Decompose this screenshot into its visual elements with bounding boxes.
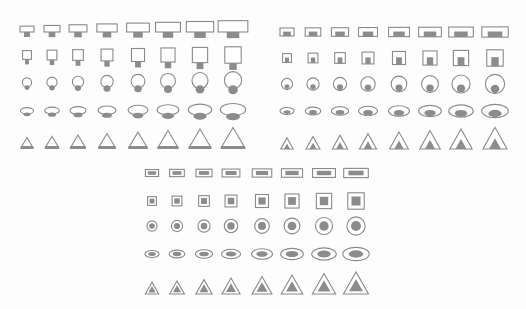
triangle-icon <box>45 136 59 149</box>
triangle-icon <box>98 133 115 149</box>
triangle-icon <box>281 275 303 294</box>
wide-rectangle-icon <box>280 28 294 36</box>
square-icon <box>148 197 157 206</box>
circle-icon <box>22 78 31 90</box>
circle-icon <box>281 78 292 89</box>
panel-a-attached <box>20 21 248 149</box>
wide-rectangle-icon <box>196 169 212 177</box>
circle-icon <box>333 77 346 90</box>
triangle-icon <box>390 132 409 149</box>
panel-b-bottom-aligned-row-circle <box>281 74 504 93</box>
ellipse-icon <box>358 106 377 116</box>
wide-rectangle-icon <box>281 169 302 178</box>
triangle-icon <box>70 135 85 149</box>
ellipse-icon <box>195 250 212 259</box>
panel-b-bottom-aligned-row-triangle <box>281 127 507 149</box>
circle-icon <box>307 78 319 90</box>
ellipse-icon <box>305 107 321 115</box>
triangle-icon <box>343 272 368 294</box>
wide-rectangle-icon <box>186 21 213 37</box>
panel-c-centered-row-triangle <box>145 272 368 294</box>
wide-rectangle-icon <box>97 24 117 38</box>
ellipse-icon <box>220 103 245 120</box>
wide-rectangle-icon <box>389 27 410 36</box>
triangle-icon <box>312 274 335 294</box>
panel-c-centered-row-square <box>148 193 365 209</box>
wide-rectangle-icon <box>156 22 181 37</box>
wide-rectangle-icon <box>145 170 158 177</box>
panel-c-centered-row-circle <box>147 217 365 235</box>
square-icon <box>225 195 237 207</box>
panel-a-attached-row-wide-rectangle <box>20 21 248 38</box>
ellipse-icon <box>331 107 348 116</box>
square-icon <box>255 194 268 207</box>
wide-rectangle-icon <box>127 23 150 38</box>
ellipse-icon <box>449 105 474 117</box>
circle-icon <box>147 221 157 231</box>
circle-icon <box>391 76 407 92</box>
triangle-icon <box>483 127 507 149</box>
ellipse-icon <box>169 250 185 258</box>
ellipse-icon <box>312 248 337 260</box>
circle-icon <box>347 217 365 235</box>
wide-rectangle-icon <box>20 26 34 37</box>
wide-rectangle-icon <box>222 169 240 177</box>
ellipse-icon <box>343 247 369 260</box>
square-icon <box>487 50 503 66</box>
triangle-icon <box>196 280 212 294</box>
triangle-icon <box>129 132 148 149</box>
wide-rectangle-icon <box>482 27 508 37</box>
ellipse-icon <box>280 107 294 114</box>
wide-rectangle-icon <box>170 169 185 176</box>
wide-rectangle-icon <box>313 169 336 178</box>
square-icon <box>335 53 346 64</box>
square-icon <box>225 47 241 70</box>
triangle-icon <box>170 281 185 294</box>
panel-a-attached-row-triangle <box>21 128 245 149</box>
ellipse-icon <box>281 248 304 259</box>
panel-b-bottom-aligned <box>280 27 508 149</box>
circle-icon <box>422 76 439 93</box>
ellipse-icon <box>145 250 159 257</box>
ellipse-icon <box>482 104 508 117</box>
triangle-icon <box>252 277 272 294</box>
square-icon <box>453 50 468 65</box>
circle-icon <box>485 74 504 93</box>
square-icon <box>308 53 318 63</box>
circle-icon <box>171 220 182 231</box>
square-icon <box>161 48 175 68</box>
triangle-icon <box>420 131 441 149</box>
square-icon <box>348 193 364 209</box>
circle-icon <box>192 73 208 94</box>
circle-icon <box>131 74 145 92</box>
ellipse-icon <box>45 107 60 117</box>
ellipse-icon <box>419 105 442 116</box>
triangle-icon <box>158 131 179 149</box>
square-icon <box>285 194 299 208</box>
wide-rectangle-icon <box>252 169 272 177</box>
ellipse-icon <box>20 108 33 117</box>
circle-icon <box>101 75 113 91</box>
ellipse-icon <box>252 249 273 259</box>
square-icon <box>392 51 405 64</box>
circle-icon <box>72 76 83 91</box>
triangle-icon <box>332 135 347 149</box>
shape-diagram <box>0 0 526 309</box>
square-icon <box>101 49 113 67</box>
square-icon <box>131 48 144 67</box>
square-icon <box>283 54 292 63</box>
circle-icon <box>224 219 237 232</box>
square-icon <box>47 50 57 65</box>
circle-icon <box>224 72 241 95</box>
ellipse-icon <box>221 249 240 259</box>
wide-rectangle-icon <box>449 27 474 37</box>
triangle-icon <box>221 128 245 149</box>
circle-icon <box>161 74 176 93</box>
wide-rectangle-icon <box>69 25 87 38</box>
circle-icon <box>361 77 375 91</box>
triangle-icon <box>145 282 158 294</box>
panel-c-centered-row-ellipse <box>145 247 369 260</box>
wide-rectangle-icon <box>344 168 369 177</box>
wide-rectangle-icon <box>44 25 60 37</box>
panel-b-bottom-aligned-row-square <box>283 50 504 66</box>
